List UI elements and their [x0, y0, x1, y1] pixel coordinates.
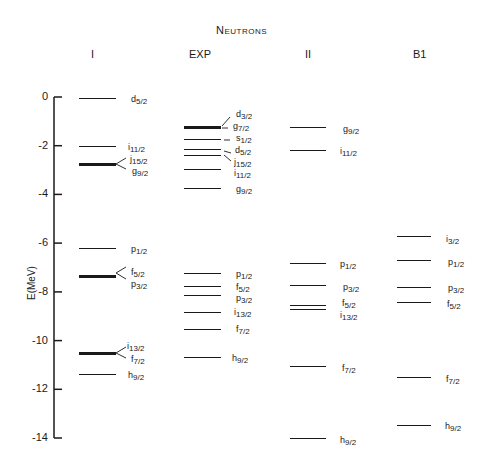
level-exp-p32 [184, 295, 221, 296]
label-i-d52: d5/2 [131, 95, 147, 106]
y-axis-label: E(MeV) [26, 266, 37, 300]
level-ii-i112 [290, 150, 326, 151]
label-ii-g92: g9/2 [343, 125, 359, 136]
level-i-i112 [79, 146, 116, 147]
tick-minus-14: -14 [22, 431, 48, 443]
level-i-i132-f72 [79, 352, 116, 355]
label-ii-p32: p3/2 [343, 283, 359, 294]
label-exp-s12: s1/2 [236, 134, 252, 145]
level-b1-i32 [397, 236, 431, 237]
label-exp-p12: p1/2 [236, 270, 252, 281]
label-ii-i112: i11/2 [340, 147, 357, 158]
label-i-p12: p1/2 [131, 245, 147, 256]
level-b1-h92 [397, 425, 431, 426]
level-exp-f52 [184, 286, 221, 287]
label-i-g92: g9/2 [132, 167, 148, 178]
level-ii-g92 [290, 127, 326, 128]
tick-minus-10: -10 [22, 334, 48, 346]
level-b1-f52 [397, 302, 431, 303]
level-i-j152-g92 [79, 163, 116, 166]
label-ii-p12: p1/2 [340, 260, 356, 271]
label-b1-h92: h9/2 [445, 422, 461, 433]
label-ii-i132: i13/2 [340, 311, 358, 322]
level-exp-d32-g72 [184, 126, 221, 129]
label-i-f72: f7/2 [131, 355, 145, 366]
level-ii-i132 [290, 309, 326, 310]
level-ii-p12 [290, 263, 326, 264]
label-exp-j152: j15/2 [234, 158, 252, 169]
tick-minus-12: -12 [22, 382, 48, 394]
label-ii-f72: f7/2 [342, 364, 356, 375]
label-i-i112: i11/2 [128, 143, 145, 154]
level-i-d52 [79, 98, 116, 99]
level-ii-h92 [290, 438, 326, 439]
label-i-f52: f5/2 [131, 268, 145, 279]
level-i-h92 [79, 374, 116, 375]
level-b1-f72 [397, 377, 431, 378]
label-b1-f52: f5/2 [447, 300, 461, 311]
level-exp-j152 [184, 155, 221, 156]
label-i-j152: j15/2 [130, 155, 148, 166]
tick-minus-2: -2 [22, 139, 48, 151]
label-i-h92: h9/2 [128, 371, 144, 382]
tick-minus-4: -4 [22, 187, 48, 199]
label-exp-h92: h9/2 [232, 354, 248, 365]
level-ii-p32 [290, 285, 326, 286]
label-exp-f72: f7/2 [236, 325, 250, 336]
label-exp-p32: p3/2 [236, 294, 252, 305]
label-exp-d52: d5/2 [235, 146, 251, 157]
level-exp-i132 [184, 312, 221, 313]
tick-0: 0 [22, 90, 48, 102]
level-ii-f72 [290, 366, 326, 367]
label-exp-g92: g9/2 [236, 185, 252, 196]
label-i-p32: p3/2 [131, 280, 147, 291]
label-ii-h92: h9/2 [340, 436, 356, 447]
label-exp-d32: d3/2 [236, 110, 252, 121]
label-exp-i132: i13/2 [234, 308, 252, 319]
label-exp-i112: i11/2 [234, 169, 251, 180]
level-exp-h92 [184, 357, 221, 358]
level-b1-p12 [397, 260, 431, 261]
label-b1-i32: i3/2 [446, 235, 459, 246]
label-exp-g72: g7/2 [233, 122, 249, 133]
level-exp-d52 [184, 149, 221, 150]
label-b1-f72: f7/2 [446, 375, 460, 386]
level-exp-p12 [184, 273, 221, 274]
level-ii-f52 [290, 305, 326, 306]
level-exp-f72 [184, 329, 221, 330]
level-i-p12 [79, 248, 116, 249]
label-i-i132: i13/2 [127, 342, 145, 353]
level-exp-s12 [184, 139, 221, 140]
level-i-f52-p32 [79, 275, 116, 278]
label-ii-f52: f5/2 [342, 299, 356, 310]
label-b1-p32: p3/2 [448, 284, 464, 295]
level-exp-g92 [184, 188, 221, 189]
level-b1-p32 [397, 287, 431, 288]
label-b1-p12: p1/2 [448, 258, 464, 269]
level-exp-i112 [184, 169, 221, 170]
tick-minus-6: -6 [22, 236, 48, 248]
